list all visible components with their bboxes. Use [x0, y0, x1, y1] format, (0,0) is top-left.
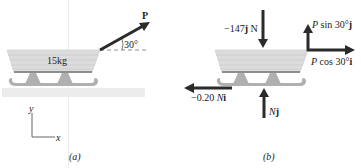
friction-label: −0.20 Ni	[191, 93, 226, 103]
p-sin-label: P sin 30°j	[312, 20, 352, 30]
sled-base	[222, 71, 300, 73]
normal-arrowhead-icon	[259, 88, 269, 97]
mass-label: 15kg	[47, 56, 67, 66]
sled-base	[14, 71, 92, 73]
caption-b: (b)	[263, 151, 275, 162]
normal-label: Nj	[269, 107, 279, 117]
angle-arc	[122, 39, 123, 50]
p-cos-label: P cos 30°i	[311, 57, 352, 67]
ground-strip	[2, 88, 145, 97]
panel-a-sled-diagram: 15kg P 30° y x (a)	[0, 0, 180, 168]
x-axis-label: x	[56, 133, 60, 143]
caption-a: (a)	[69, 151, 81, 162]
p-cos-arrowhead-icon	[345, 45, 355, 55]
sled-runners	[9, 73, 98, 86]
force-p-label: P	[142, 11, 148, 21]
y-axis-label: y	[29, 104, 33, 114]
weight-label: −147j N	[224, 24, 258, 34]
weight-arrowhead-icon	[258, 39, 268, 48]
sled-drawing-a	[0, 0, 180, 168]
sled-runners	[217, 73, 306, 86]
angle-label: 30°	[124, 40, 138, 50]
panel-b-free-body-diagram: −147j N P sin 30°j P cos 30°i −0.20 Ni N…	[180, 0, 361, 168]
